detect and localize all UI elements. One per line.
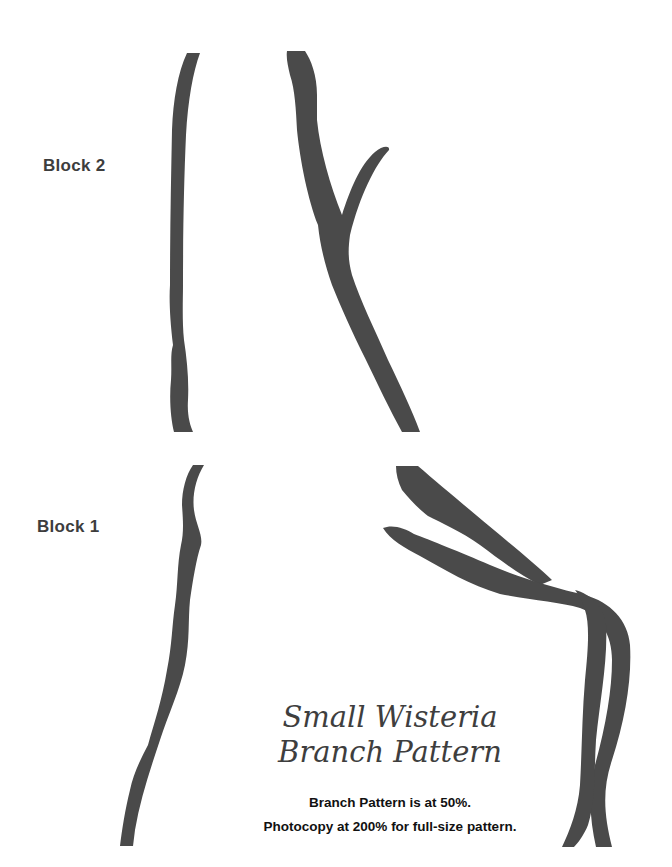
block-2-left-branch xyxy=(170,53,200,432)
pattern-title-line-2: Branch Pattern xyxy=(270,735,510,769)
block-1-left-branch xyxy=(120,465,204,846)
pattern-title-line-1: Small Wisteria xyxy=(270,700,510,734)
scale-note: Branch Pattern is at 50%. xyxy=(230,795,550,810)
photocopy-note: Photocopy at 200% for full-size pattern. xyxy=(230,819,550,834)
block-2-right-branch xyxy=(287,51,420,432)
